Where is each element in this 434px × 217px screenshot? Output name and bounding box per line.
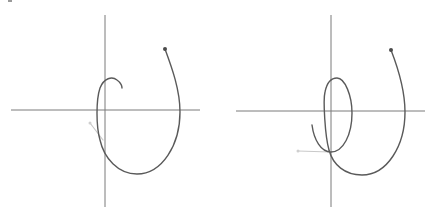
spiral-curve: [312, 50, 405, 175]
plot-left: [0, 0, 217, 217]
plot-right: [217, 0, 434, 217]
tail-end-dot: [297, 150, 300, 153]
trajectory-tail: [90, 123, 103, 140]
panel-right: [217, 0, 434, 217]
spiral-curve: [97, 49, 180, 174]
start-dot: [389, 48, 393, 52]
start-dot: [163, 47, 167, 51]
panel-left: [0, 0, 217, 217]
tail-end-dot: [89, 122, 92, 125]
